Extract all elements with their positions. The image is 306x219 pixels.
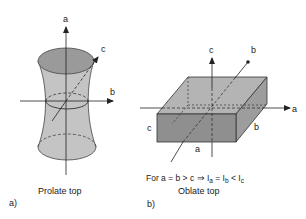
prolate-body bbox=[38, 61, 96, 160]
axis-b-line-bottom bbox=[171, 142, 183, 162]
panel-a-tag: a) bbox=[9, 198, 17, 208]
oblate-caption: Oblate top bbox=[178, 186, 220, 196]
edge-label-c: c bbox=[147, 123, 152, 133]
axis-b-end-dot bbox=[246, 60, 250, 64]
edge-label-a: a bbox=[195, 144, 200, 154]
panel-b-tag: b) bbox=[147, 199, 155, 209]
axis-b-label: b bbox=[110, 87, 115, 97]
axis-a-label: a bbox=[63, 14, 68, 24]
oblate-top-figure: c b a c a b For a = b > c ⇒ Ia = Ib < Ic… bbox=[140, 45, 297, 209]
box-front-face bbox=[157, 114, 236, 142]
axis-b-line-top bbox=[235, 62, 248, 78]
diagram-canvas: a b c Prolate top a) c b a c a bbox=[0, 0, 306, 219]
moment-inertia-formula: For a = b > c ⇒ Ia = Ib < Ic bbox=[146, 173, 245, 184]
prolate-caption: Prolate top bbox=[38, 186, 82, 196]
prolate-top-figure: a b c Prolate top a) bbox=[9, 14, 115, 208]
axis-a-label: a bbox=[292, 104, 297, 114]
axis-c-label: c bbox=[101, 44, 106, 54]
edge-label-b: b bbox=[254, 122, 259, 132]
axis-c-label: c bbox=[209, 45, 214, 55]
axis-b-label: b bbox=[251, 45, 256, 55]
axis-c-line-tip bbox=[95, 57, 98, 61]
